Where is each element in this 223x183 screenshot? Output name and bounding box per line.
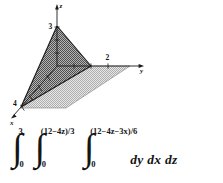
y-axis-label: y xyxy=(139,67,144,75)
x-tick-label-4: 4 xyxy=(13,99,17,108)
diagram-svg: z y x 3 2 4 xyxy=(0,0,150,126)
inner-integral-lower-limit: 0 xyxy=(91,159,95,169)
outer-integral-lower-limit: 0 xyxy=(19,159,23,169)
middle-integral: ∫ (12−4z)/3 0 xyxy=(34,126,44,176)
figure-root: z y x 3 2 4 ∫ 3 0 ∫ (12−4z)/3 xyxy=(0,0,223,183)
integral-row: ∫ 3 0 ∫ (12−4z)/3 0 ∫ (12−4z− xyxy=(12,126,178,178)
y-tick-label-2: 2 xyxy=(106,53,110,62)
outer-integral: ∫ 3 0 xyxy=(12,126,22,176)
middle-integral-upper-limit: (12−4z)/3 xyxy=(41,126,75,136)
inner-integral-upper-limit: (12−4z−3x)/6 xyxy=(90,126,137,136)
z-axis-arrowhead xyxy=(55,4,59,9)
outer-integral-upper-limit: 3 xyxy=(18,126,22,136)
differentials-label: dy dx dz xyxy=(130,152,177,168)
inner-integral: ∫ (12−4z−3x)/6 0 xyxy=(84,126,94,176)
x-axis-arrowhead xyxy=(11,114,17,119)
tetrahedron-diagram: z y x 3 2 4 xyxy=(0,0,150,126)
z-tick-label-3: 3 xyxy=(49,22,53,31)
middle-integral-lower-limit: 0 xyxy=(42,159,46,169)
z-axis-label: z xyxy=(59,2,63,10)
triple-integral-expression: ∫ 3 0 ∫ (12−4z)/3 0 ∫ (12−4z− xyxy=(0,124,223,183)
